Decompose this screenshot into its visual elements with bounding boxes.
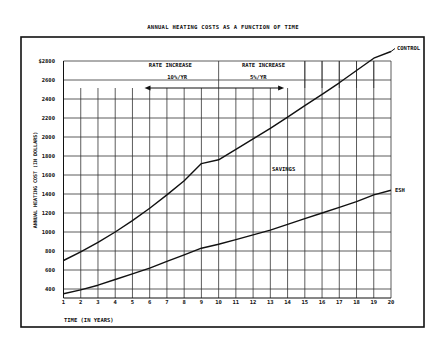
x-tick-label: 7 [165,299,168,305]
x-tick-label: 6 [148,299,152,305]
line-chart: $280026002400220020001800160014001200100… [0,0,446,347]
rate-increase-1-label: RATE INCREASE [149,62,192,68]
x-tick-label: 12 [250,299,257,305]
y-tick-label: 1800 [42,153,55,159]
x-tick-label: 3 [96,299,99,305]
x-tick-label: 14 [284,299,291,305]
x-tick-label: 5 [131,299,134,305]
control-series-label: CONTROL [397,45,421,51]
x-tick-label: 18 [353,299,360,305]
x-tick-label: 10 [215,299,222,305]
series-line-esh [64,190,392,294]
x-tick-label: 1 [62,299,66,305]
rate-increase-2-value: 5%/YR [250,74,267,80]
x-tick-label: 9 [200,299,203,305]
y-tick-label: 1600 [42,172,55,178]
outer-frame [21,37,424,327]
y-tick-label: 2000 [42,134,55,140]
y-axis-label: ANNUAL HEATING COST (IN DOLLARS) [32,132,38,228]
x-tick-label: 13 [267,299,274,305]
x-tick-label: 20 [388,299,395,305]
y-tick-label: 2200 [42,115,55,121]
y-tick-label: 1200 [42,210,55,216]
rate-increase-1-value: 10%/YR [167,74,188,80]
esh-series-label: ESH [395,187,405,193]
x-tick-label: 4 [114,299,118,305]
x-tick-label: 2 [79,299,82,305]
x-tick-label: 19 [370,299,377,305]
x-tick-label: 8 [183,299,186,305]
y-tick-label: 400 [45,286,55,292]
y-tick-label: 2400 [42,96,55,102]
y-tick-label: 2600 [42,77,55,83]
y-tick-label: 1400 [42,191,55,197]
arrow-right-icon [278,86,284,91]
control-leader [391,49,395,52]
x-axis-label: TIME (IN YEARS) [64,317,114,323]
y-tick-label: 800 [45,248,55,254]
savings-label: SAVINGS [272,166,295,172]
x-tick-label: 17 [336,299,343,305]
x-tick-label: 15 [302,299,309,305]
y-tick-label: 600 [45,267,55,273]
y-tick-label: 1000 [42,229,55,235]
y-tick-label: $2800 [38,58,55,64]
x-tick-label: 16 [319,299,326,305]
x-tick-label: 11 [233,299,240,305]
arrow-left-icon [145,86,151,91]
rate-increase-2-label: RATE INCREASE [242,62,285,68]
